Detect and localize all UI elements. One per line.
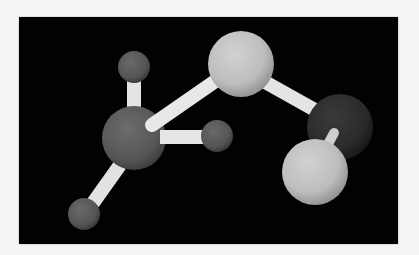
bond-central-lighttop	[152, 82, 214, 125]
atom-light-front	[282, 139, 348, 205]
molecule-viewport	[19, 17, 398, 244]
bond-lighttop-dark	[265, 82, 315, 110]
bond-central-bottomleft	[93, 165, 120, 203]
atom-h-top-left	[118, 51, 150, 83]
atom-h-right	[201, 120, 233, 152]
image-canvas	[0, 0, 419, 255]
atom-h-bottom-left	[68, 198, 100, 230]
atom-light-top	[208, 31, 274, 97]
molecule-model	[19, 17, 398, 244]
